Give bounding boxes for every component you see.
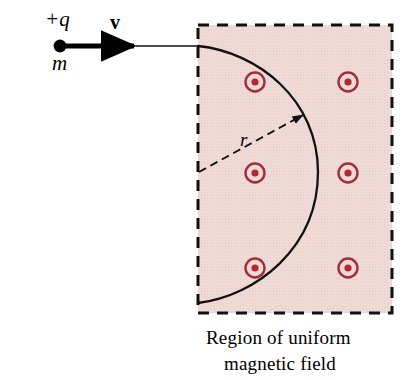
field-region-group [198, 25, 392, 313]
field-region-fill [198, 25, 392, 313]
radius-label: r [240, 129, 248, 150]
diagram-canvas: +q m v r Region of uniform magnetic fiel… [0, 0, 413, 380]
field-region-caption-line-1: Region of uniform [206, 327, 351, 348]
physics-diagram-figure: +q m v r Region of uniform magnetic fiel… [0, 0, 413, 380]
velocity-label: v [110, 11, 120, 33]
charge-label: +q [45, 7, 70, 31]
field-region-caption-line-2: magnetic field [224, 353, 336, 374]
mass-label: m [52, 51, 67, 75]
